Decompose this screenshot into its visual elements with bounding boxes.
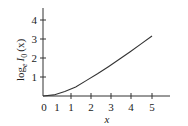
x-axis-label: x	[104, 113, 110, 125]
x-tick-label: 0	[41, 101, 47, 113]
y-tick-label: 3	[32, 33, 38, 45]
plot-area: 1 2 3 4 0 1 1 2 3 4 5 x logeI0(x)	[0, 0, 188, 126]
data-line	[43, 36, 152, 96]
x-tick-label: 4	[128, 101, 134, 113]
y-tick-label: 1	[32, 71, 38, 83]
y-axis-label: logeI0(x)	[14, 39, 29, 81]
y-tick-label: 4	[32, 14, 38, 26]
chart: 1 2 3 4 0 1 1 2 3 4 5 x logeI0(x)	[0, 0, 188, 126]
x-tick-label: 3	[108, 101, 114, 113]
y-tick-labels: 1 2 3 4	[32, 14, 38, 83]
y-tick-label: 2	[32, 52, 38, 64]
x-tick-labels: 0 1 1 2 3 4 5	[41, 101, 155, 113]
x-tick-label: 1	[68, 101, 74, 113]
x-tick-label: 2	[88, 101, 94, 113]
x-tick-label: 1	[54, 101, 60, 113]
x-tick-label: 5	[149, 101, 155, 113]
